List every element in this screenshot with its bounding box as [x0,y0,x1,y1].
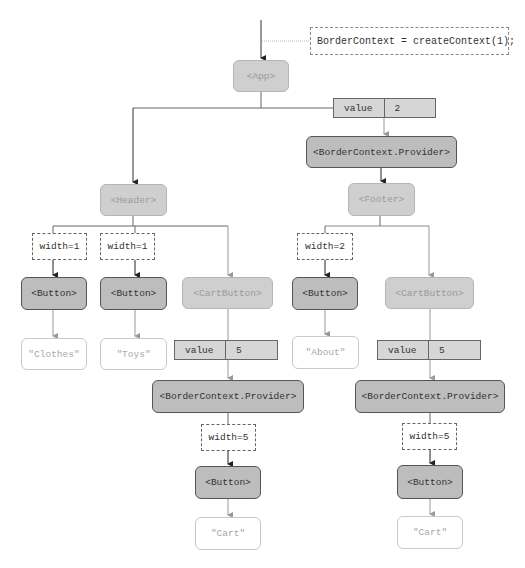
width-prop-toys: width=1 [100,233,155,260]
border-context-provider-top[interactable]: <BorderContext.Provider> [306,136,457,168]
button-node-about[interactable]: <Button> [292,277,358,310]
create-context-declaration: BorderContext = createContext(1); [310,27,509,55]
text-node-cart-right: "Cart" [397,516,463,549]
value-key: value [334,99,385,117]
provider-value-top: value 2 [333,98,436,118]
width-prop-about: width=2 [297,233,353,260]
width-prop-cart-right: width=5 [402,423,457,450]
button-node-clothes[interactable]: <Button> [21,277,87,310]
value-val: 2 [385,99,401,117]
border-context-provider-left[interactable]: <BorderContext.Provider> [152,380,304,413]
context-tree-diagram: BorderContext = createContext(1); <App> … [0,0,525,568]
footer-node[interactable]: <Footer> [348,183,415,216]
value-key: value [175,341,226,359]
text-node-about: "About" [292,336,359,369]
width-prop-clothes: width=1 [32,233,87,260]
button-node-toys[interactable]: <Button> [100,277,167,310]
button-node-cart-left[interactable]: <Button> [195,466,261,499]
button-node-cart-right[interactable]: <Button> [397,465,463,499]
provider-value-right: value 5 [377,340,481,360]
header-node[interactable]: <Header> [100,184,167,216]
width-prop-cart-left: width=5 [201,424,256,451]
app-node[interactable]: <App> [233,60,289,92]
value-key: value [378,341,429,359]
value-val: 5 [429,341,445,359]
text-node-toys: "Toys" [100,338,167,370]
cartbutton-node-left[interactable]: <CartButton> [182,277,273,309]
text-node-cart-left: "Cart" [195,517,261,550]
cartbutton-node-right[interactable]: <CartButton> [385,277,474,309]
text-node-clothes: "Clothes" [21,338,87,370]
value-val: 5 [226,341,242,359]
provider-value-left: value 5 [174,340,278,360]
border-context-provider-right[interactable]: <BorderContext.Provider> [355,380,505,413]
